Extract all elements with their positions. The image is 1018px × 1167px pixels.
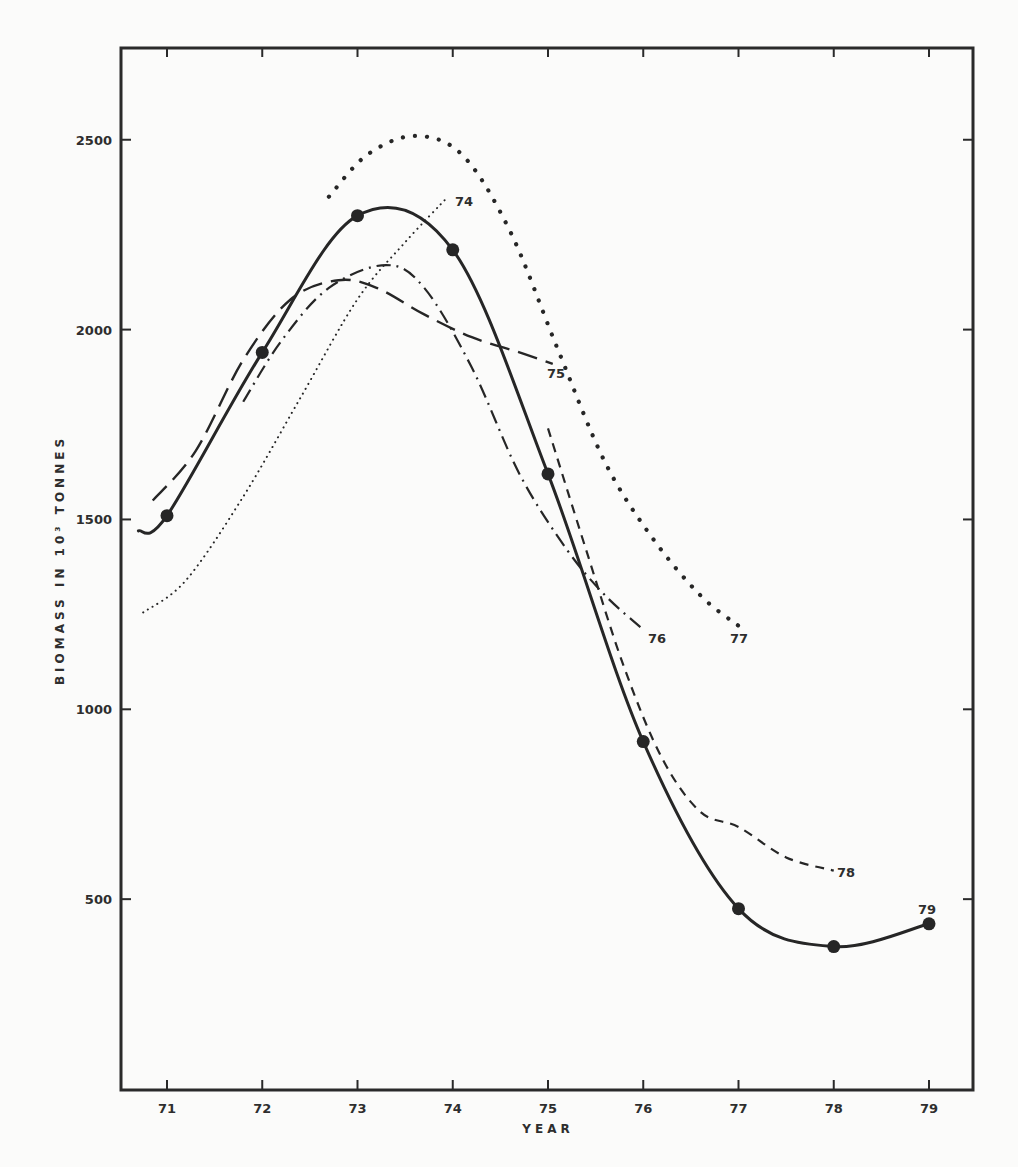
x-tick-label: 79 xyxy=(920,1101,938,1116)
biomass-chart: 5001000150020002500 717273747576777879 7… xyxy=(0,0,1018,1167)
x-tick-label: 72 xyxy=(253,1101,271,1116)
x-tick-label: 77 xyxy=(729,1101,747,1116)
curve-label-78: 78 xyxy=(837,865,855,880)
curve-label-79: 79 xyxy=(918,902,936,917)
y-tick-label: 2000 xyxy=(76,323,112,338)
x-tick-label: 76 xyxy=(634,1101,652,1116)
plot-border xyxy=(121,48,973,1090)
curve-75 xyxy=(153,280,553,501)
data-point-marker xyxy=(827,940,840,953)
x-axis-ticks: 717273747576777879 xyxy=(158,48,938,1116)
curve-79 xyxy=(138,207,929,946)
y-tick-label: 500 xyxy=(85,892,112,907)
data-point-marker xyxy=(732,902,745,915)
data-point-marker xyxy=(256,346,269,359)
curve-labels: 797475767778 xyxy=(455,194,936,917)
curve-label-77: 77 xyxy=(730,631,748,646)
data-point-marker xyxy=(351,209,364,222)
x-axis-title: YEAR xyxy=(521,1122,573,1136)
data-point-marker xyxy=(446,243,459,256)
y-tick-label: 2500 xyxy=(76,133,112,148)
data-point-marker xyxy=(637,735,650,748)
y-axis-title: BIOMASS IN 10³ TONNES xyxy=(53,435,67,685)
curves xyxy=(138,136,935,953)
x-tick-label: 71 xyxy=(158,1101,176,1116)
y-axis-ticks: 5001000150020002500 xyxy=(76,133,973,907)
x-tick-label: 75 xyxy=(539,1101,557,1116)
data-point-marker xyxy=(923,917,936,930)
data-point-marker xyxy=(161,509,174,522)
x-tick-label: 74 xyxy=(444,1101,462,1116)
curve-label-75: 75 xyxy=(547,366,565,381)
data-point-marker xyxy=(542,467,555,480)
curve-77 xyxy=(329,136,739,626)
curve-label-76: 76 xyxy=(648,631,666,646)
curve-78 xyxy=(548,428,834,870)
y-tick-label: 1500 xyxy=(76,512,112,527)
plot-frame xyxy=(121,48,973,1090)
curve-label-74: 74 xyxy=(455,194,473,209)
x-tick-label: 73 xyxy=(348,1101,366,1116)
curve-74 xyxy=(143,197,448,613)
x-tick-label: 78 xyxy=(825,1101,843,1116)
y-tick-label: 1000 xyxy=(76,702,112,717)
